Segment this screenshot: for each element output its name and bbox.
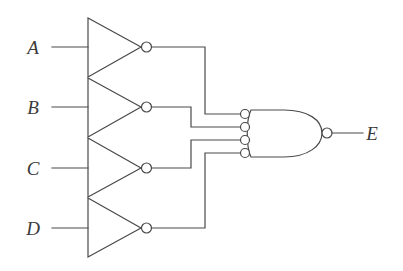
logic-circuit-svg: A B C D E xyxy=(0,0,403,271)
inverter-b-bubble-icon xyxy=(142,102,152,112)
inverter-a-bubble-icon xyxy=(142,42,152,52)
input-label-d: D xyxy=(25,218,40,239)
and-gate-input-bubble-2-icon xyxy=(241,123,250,132)
wire-c-to-gate xyxy=(152,140,241,168)
inverter-d-bubble-icon xyxy=(142,223,152,233)
and-gate-body xyxy=(247,110,322,157)
circuit-diagram-canvas: A B C D E xyxy=(0,0,403,271)
wire-d-to-gate xyxy=(152,153,241,228)
wire-a-to-gate xyxy=(152,47,241,114)
inverter-b-triangle xyxy=(88,78,141,137)
input-label-a: A xyxy=(25,37,39,58)
inverter-c-bubble-icon xyxy=(142,163,152,173)
and-gate-input-bubble-1-icon xyxy=(241,110,250,119)
input-label-b: B xyxy=(27,97,39,118)
wire-b-to-gate xyxy=(152,107,241,127)
inverter-c-triangle xyxy=(88,138,141,197)
inverter-gates xyxy=(88,18,152,257)
and-gate xyxy=(241,110,333,158)
inverter-a-triangle xyxy=(88,18,141,77)
and-gate-input-bubble-4-icon xyxy=(241,149,250,158)
output-label-e: E xyxy=(365,123,378,144)
and-gate-input-bubble-3-icon xyxy=(241,136,250,145)
interconnect-wires xyxy=(152,47,241,228)
input-wires xyxy=(52,47,88,228)
inverter-d-triangle xyxy=(88,198,141,257)
and-gate-output-bubble-icon xyxy=(322,128,332,138)
input-label-c: C xyxy=(27,158,40,179)
